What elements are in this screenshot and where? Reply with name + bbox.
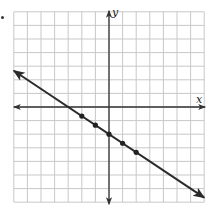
data-point [134,150,139,155]
data-point [79,113,84,118]
data-point [106,132,111,137]
data-point [120,141,125,146]
data-point [93,123,98,128]
x-axis-label: x [196,94,202,105]
coordinate-plane [0,0,212,213]
y-axis-label: y [112,7,118,18]
